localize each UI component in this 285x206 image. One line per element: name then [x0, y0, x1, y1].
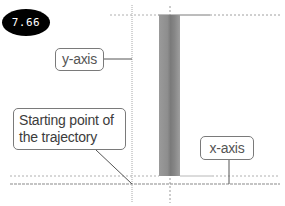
- trajectory-diagram: 7.66 y-axis Starting point of the trajec…: [0, 0, 285, 206]
- trajectory-bar: [159, 15, 180, 176]
- starting-point-line2: the trajectory: [19, 129, 125, 146]
- x-axis-callout: x-axis: [200, 136, 254, 160]
- value-badge: 7.66: [2, 9, 50, 36]
- starting-point-line1: Starting point of: [19, 112, 125, 129]
- start-leader: [96, 150, 132, 184]
- starting-point-callout: Starting point of the trajectory: [13, 108, 126, 150]
- y-axis-callout: y-axis: [55, 48, 104, 71]
